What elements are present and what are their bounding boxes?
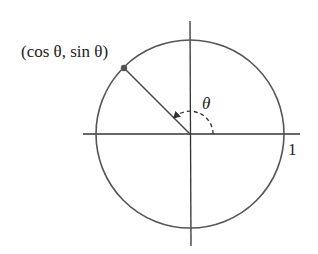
radius-label: 1 [288, 140, 297, 159]
angle-arc [175, 111, 214, 134]
unit-circle-diagram: (cos θ, sin θ) θ 1 [0, 0, 318, 254]
point-on-circle [121, 65, 127, 71]
point-label: (cos θ, sin θ) [21, 42, 108, 61]
radius-line [124, 68, 190, 134]
angle-label: θ [202, 94, 210, 113]
